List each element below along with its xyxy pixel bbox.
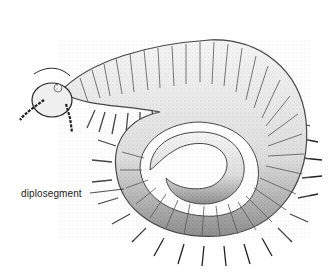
- millipede-illustration: [0, 0, 332, 278]
- diplosegment-label: diplosegment: [21, 188, 82, 199]
